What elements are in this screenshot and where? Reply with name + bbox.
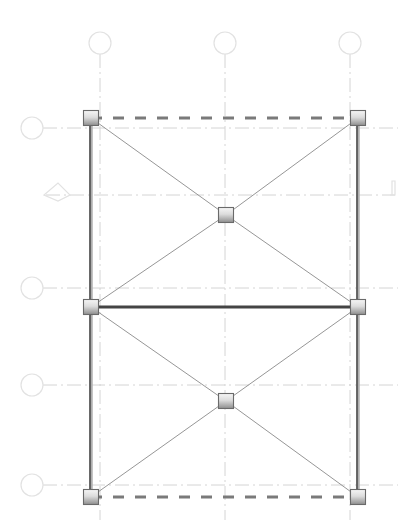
frame-diagram	[0, 0, 413, 525]
grid-bubble-icon	[21, 374, 43, 396]
node-square-icon	[219, 208, 234, 223]
node-n6[interactable]	[351, 490, 366, 505]
level-marker-icon	[44, 183, 70, 201]
brace-8	[226, 401, 358, 497]
grid-bubble-icon	[339, 32, 361, 54]
grid-bubble-icon	[89, 32, 111, 54]
node-n3[interactable]	[84, 300, 99, 315]
node-square-icon	[84, 111, 99, 126]
structural-members	[90, 118, 358, 497]
brace-6	[226, 307, 358, 401]
grid-lines	[21, 32, 398, 520]
brace-4	[226, 215, 358, 307]
node-n5[interactable]	[84, 490, 99, 505]
brace-7	[91, 401, 226, 497]
grid-bubble-icon	[214, 32, 236, 54]
node-square-icon	[351, 300, 366, 315]
node-square-icon	[84, 300, 99, 315]
node-square-icon	[351, 111, 366, 126]
node-n1[interactable]	[84, 111, 99, 126]
node-square-icon	[84, 490, 99, 505]
brace-2	[226, 118, 358, 215]
node-n4[interactable]	[351, 300, 366, 315]
node-square-icon	[351, 490, 366, 505]
brace-1	[91, 118, 226, 215]
grid-bubble-icon	[21, 474, 43, 496]
grid-bubble-icon	[21, 277, 43, 299]
node-n7[interactable]	[219, 208, 234, 223]
node-square-icon	[219, 394, 234, 409]
level-end-bracket-icon	[390, 181, 395, 195]
brace-3	[91, 215, 226, 307]
node-n2[interactable]	[351, 111, 366, 126]
brace-5	[91, 307, 226, 401]
grid-bubble-icon	[21, 117, 43, 139]
node-n8[interactable]	[219, 394, 234, 409]
